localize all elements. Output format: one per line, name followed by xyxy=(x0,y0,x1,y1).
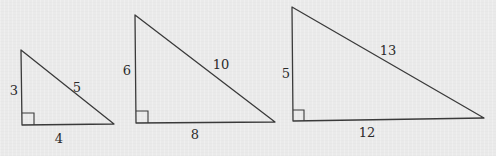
side-label-base: 4 xyxy=(55,132,63,145)
right-angle-marker xyxy=(293,110,304,121)
triangles-drawing xyxy=(0,0,496,156)
side-label-hypotenuse: 13 xyxy=(380,44,397,57)
side-label-base: 8 xyxy=(191,128,199,141)
triangle-3-4-5 xyxy=(21,50,114,125)
triangle-outline xyxy=(292,7,484,121)
side-label-hypotenuse: 5 xyxy=(73,81,81,94)
side-label-hypotenuse: 10 xyxy=(213,58,230,71)
triangle-outline xyxy=(135,15,275,123)
side-label-vertical: 3 xyxy=(10,84,18,97)
side-label-vertical: 5 xyxy=(282,67,290,80)
triangle-5-12-13 xyxy=(292,7,484,121)
side-label-vertical: 6 xyxy=(123,64,131,77)
triangle-outline xyxy=(21,50,114,125)
right-angle-marker xyxy=(22,113,34,125)
right-triangles-diagram: 3 5 4 6 10 8 5 13 12 xyxy=(0,0,496,156)
side-label-base: 12 xyxy=(359,126,376,139)
triangle-6-8-10 xyxy=(135,15,275,123)
right-angle-marker xyxy=(136,111,148,123)
